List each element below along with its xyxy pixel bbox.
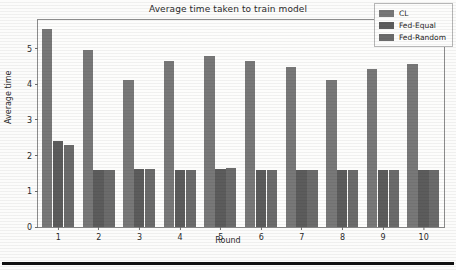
bar <box>296 170 306 227</box>
legend-label: Fed-Equal <box>399 21 436 30</box>
chart-legend: CL Fed-Equal Fed-Random <box>374 3 453 47</box>
scan-page-edge <box>2 262 454 265</box>
y-tick-label: 4 <box>27 80 38 89</box>
legend-label: CL <box>399 9 408 18</box>
bar <box>204 56 214 227</box>
bar <box>42 29 52 227</box>
bar <box>83 50 93 227</box>
bar <box>326 80 336 227</box>
legend-entry: Fed-Random <box>379 31 446 43</box>
x-axis-label: Round <box>0 236 456 245</box>
legend-swatch-icon <box>379 34 394 41</box>
figure-canvas: Average time taken to train model Averag… <box>0 0 456 270</box>
bar <box>53 141 63 227</box>
legend-label: Fed-Random <box>399 33 446 42</box>
bar <box>104 170 114 227</box>
y-tick-label: 2 <box>27 151 38 160</box>
bar <box>367 69 377 227</box>
bar <box>123 80 133 227</box>
bar <box>245 61 255 227</box>
bar <box>286 67 296 227</box>
bar <box>145 169 155 227</box>
bar <box>134 169 144 227</box>
y-tick-label: 1 <box>27 187 38 196</box>
bar <box>64 145 74 227</box>
bar <box>215 169 225 227</box>
bar <box>226 168 236 227</box>
bar <box>175 170 185 227</box>
bar <box>307 170 317 227</box>
bar <box>267 170 277 227</box>
y-tick-label: 0 <box>27 223 38 232</box>
legend-entry: Fed-Equal <box>379 19 446 31</box>
bar <box>164 61 174 227</box>
bar <box>418 170 428 227</box>
bar <box>186 170 196 227</box>
bar <box>337 170 347 227</box>
bar <box>348 170 358 227</box>
bar <box>256 170 266 227</box>
bar <box>407 64 417 227</box>
bar <box>378 170 388 227</box>
y-axis-label: Average time <box>4 71 13 124</box>
bar <box>429 170 439 227</box>
bar <box>93 170 103 227</box>
legend-swatch-icon <box>379 10 394 17</box>
y-tick-label: 5 <box>27 44 38 53</box>
bar <box>389 170 399 227</box>
y-tick-label: 3 <box>27 115 38 124</box>
plot-area: 012345 12345678910 <box>38 20 444 227</box>
legend-swatch-icon <box>379 22 394 29</box>
legend-entry: CL <box>379 7 446 19</box>
